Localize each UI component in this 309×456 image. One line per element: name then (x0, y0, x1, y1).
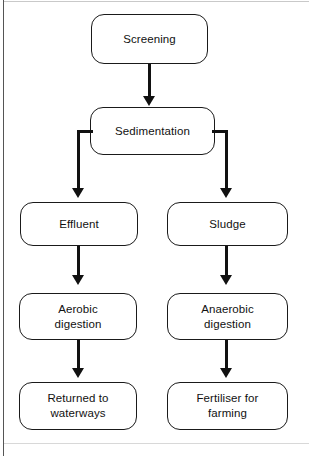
edge-sedimentation-to-effluent-shaft (77, 130, 80, 189)
figure-left-border (3, 0, 4, 456)
node-fertiliser-for-farming: Fertiliser for farming (167, 382, 288, 430)
figure-bottom-border (4, 443, 309, 444)
edge-effluent-to-aerobic-shaft (77, 246, 80, 276)
node-effluent: Effluent (20, 202, 138, 246)
node-aerobic-digestion: Aerobic digestion (19, 293, 137, 340)
edge-screening-to-sedimentation-shaft (148, 64, 151, 97)
node-returned-to-waterways: Returned to waterways (19, 382, 137, 430)
node-anaerobic-digestion: Anaerobic digestion (167, 293, 288, 340)
edge-effluent-to-aerobic-arrowhead (72, 275, 84, 285)
edge-sedimentation-to-effluent-arrowhead (72, 188, 84, 198)
edge-anaerobic-to-fertiliser-arrowhead (220, 368, 232, 378)
edge-sludge-to-anaerobic-arrowhead (220, 275, 232, 285)
figure-top-border (4, 1, 309, 2)
edge-sedimentation-to-sludge-shaft (225, 130, 228, 189)
edge-screening-to-sedimentation-arrowhead (143, 96, 155, 106)
edge-aerobic-to-returned-arrowhead (72, 368, 84, 378)
node-screening: Screening (91, 14, 208, 64)
node-sludge: Sludge (167, 202, 288, 246)
flowchart-figure: Screening Sedimentation Effluent Sludge … (0, 0, 309, 456)
edge-sedimentation-to-sludge-arrowhead (220, 188, 232, 198)
edge-anaerobic-to-fertiliser-shaft (225, 340, 228, 369)
node-sedimentation: Sedimentation (90, 107, 215, 155)
edge-aerobic-to-returned-shaft (77, 340, 80, 369)
edge-sludge-to-anaerobic-shaft (225, 246, 228, 276)
